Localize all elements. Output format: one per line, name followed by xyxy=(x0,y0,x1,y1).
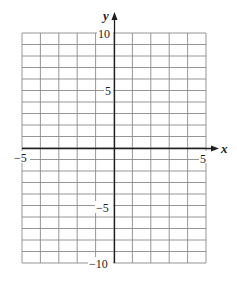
y-tick-10: 10 xyxy=(98,27,110,41)
axes xyxy=(22,12,219,263)
x-tick-max: 5 xyxy=(200,152,206,166)
x-axis-label: x xyxy=(220,141,228,156)
y-axis-arrow-icon xyxy=(112,12,118,20)
y-tick-neg10: −10 xyxy=(89,257,108,271)
coordinate-plane: x y −5 5 10 5 −5 −10 xyxy=(0,0,237,287)
axis-labels: x y xyxy=(101,8,228,156)
y-axis-label: y xyxy=(101,8,109,23)
y-tick-5: 5 xyxy=(105,84,111,98)
x-tick-min: −5 xyxy=(14,151,27,165)
x-axis-arrow-icon xyxy=(211,146,219,152)
y-tick-neg5: −5 xyxy=(96,201,109,215)
